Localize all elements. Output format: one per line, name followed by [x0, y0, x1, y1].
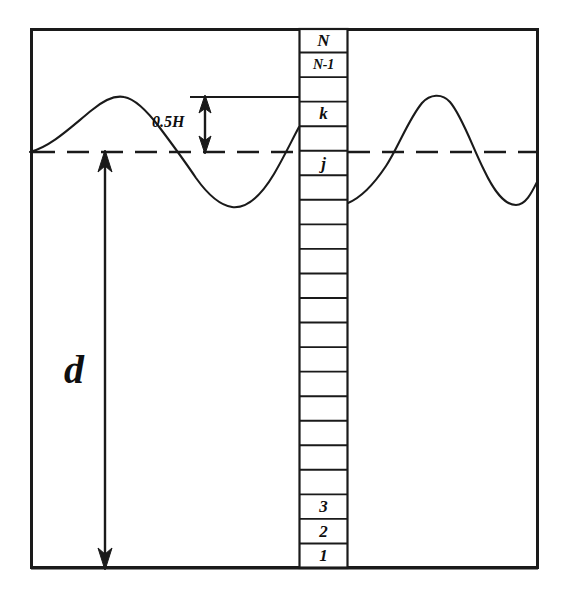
layer-divider-lines [299, 53, 348, 544]
wave-height-dimension-arrow [199, 95, 211, 154]
layer-index-label-j: j [300, 155, 348, 172]
depth-dimension-arrow [98, 150, 112, 570]
layer-index-label-2: 2 [300, 523, 348, 540]
wave-height-label: 0.5H [152, 114, 184, 130]
layer-index-label-1: 1 [300, 547, 348, 564]
layer-index-label-N1: N-1 [300, 58, 348, 72]
layer-index-label-3: 3 [300, 498, 348, 515]
depth-label: d [64, 350, 84, 390]
outer-domain-border [32, 30, 538, 568]
wave-ladder-diagram: d 0.5H NN-1kj321 [0, 0, 564, 596]
layer-index-label-N: N [300, 32, 348, 49]
layer-index-label-k: k [300, 105, 348, 122]
diagram-canvas [0, 0, 564, 596]
wave-profile-right [348, 96, 538, 205]
